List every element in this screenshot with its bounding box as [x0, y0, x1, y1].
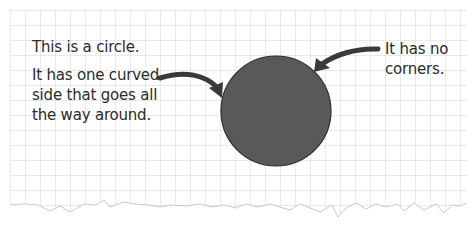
corners-line1: It has no — [385, 39, 448, 59]
corners-line2: corners. — [385, 59, 448, 79]
curved-side-label: It has one curved side that goes all the… — [32, 65, 159, 125]
curved-side-line3: the way around. — [32, 105, 159, 125]
corners-label: It has no corners. — [385, 39, 448, 79]
circle-shape — [221, 56, 331, 166]
curved-side-line2: side that goes all — [32, 85, 159, 105]
curved-side-line1: It has one curved — [32, 65, 159, 85]
title-label: This is a circle. — [32, 37, 139, 57]
